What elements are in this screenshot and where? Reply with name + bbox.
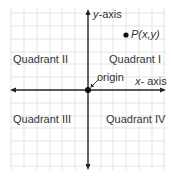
y-axis-down-arrow-icon xyxy=(86,164,91,170)
origin-label: origin xyxy=(97,72,124,83)
y-axis-up-arrow-icon xyxy=(86,9,91,15)
quadrant-iii-label: Quadrant III xyxy=(13,114,71,125)
point-p-label: P(x,y) xyxy=(131,29,160,40)
coordinate-plane-graphic xyxy=(0,0,171,176)
x-axis-right-arrow-icon xyxy=(160,88,166,93)
quadrant-i-label: Quadrant I xyxy=(109,54,161,65)
point-p-dot xyxy=(123,32,128,37)
y-axis-label-rest: -axis xyxy=(99,8,122,20)
coordinate-plane-diagram: y-axis P(x,y) Quadrant II Quadrant I ori… xyxy=(0,0,171,176)
x-axis-label: x- axis xyxy=(135,76,167,87)
x-axis-label-rest: - axis xyxy=(141,75,167,87)
origin-dot xyxy=(85,87,91,93)
y-axis-label: y-axis xyxy=(93,9,122,20)
quadrant-ii-label: Quadrant II xyxy=(13,54,68,65)
quadrant-iv-label: Quadrant IV xyxy=(106,114,165,125)
